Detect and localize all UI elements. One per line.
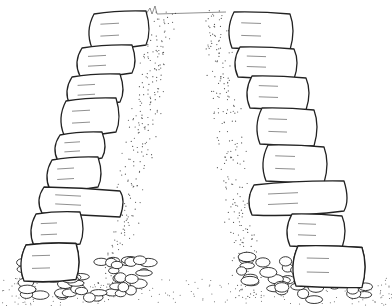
rubble-speck: [249, 225, 250, 226]
left-face-stone: [47, 157, 101, 191]
rubble-speck: [124, 221, 125, 222]
ground-speck: [380, 297, 381, 298]
rubble-speck: [150, 98, 151, 99]
rubble-speck: [151, 157, 152, 158]
rubble-speck: [139, 86, 140, 87]
ground-speck: [11, 286, 12, 287]
ground-speck: [167, 294, 168, 295]
rubble-speck: [261, 297, 262, 298]
rubble-speck: [142, 189, 143, 190]
rubble-speck: [148, 130, 149, 131]
rubble-speck: [132, 146, 133, 147]
rubble-speck: [126, 220, 127, 221]
rubble-speck: [233, 199, 234, 200]
rubble-speck: [106, 286, 107, 287]
rubble-speck: [158, 50, 159, 51]
grass-tuft: [146, 6, 226, 14]
rubble-speck: [148, 58, 149, 59]
rubble-speck: [211, 43, 212, 44]
rubble-speck: [141, 102, 142, 103]
rubble-speck: [163, 91, 164, 92]
ground-speck: [14, 283, 15, 284]
rubble-speck: [160, 67, 161, 68]
stone-wall-illustration: [0, 0, 392, 308]
ground-speck: [23, 302, 24, 303]
ground-speck: [159, 294, 160, 295]
rubble-speck: [218, 140, 219, 141]
rubble-speck: [247, 232, 248, 233]
rubble-speck: [164, 23, 165, 24]
rubble-speck: [227, 131, 228, 132]
rubble-speck: [247, 203, 248, 204]
ground-speck: [380, 290, 381, 291]
rubble-speck: [224, 222, 225, 223]
rubble-speck: [236, 146, 237, 147]
rubble-speck: [240, 163, 241, 164]
rubble-speck: [215, 60, 216, 61]
rubble-speck: [152, 81, 153, 82]
rubble-speck: [148, 84, 149, 85]
rubble-speck: [125, 166, 126, 167]
rubble-speck: [227, 99, 228, 100]
ground-speck: [197, 288, 198, 289]
ground-speck: [382, 295, 383, 296]
rubble-speck: [241, 210, 242, 211]
rubble-speck: [211, 91, 212, 92]
rubble-speck: [235, 205, 236, 206]
rubble-speck: [139, 94, 140, 95]
rubble-speck: [208, 26, 209, 27]
rubble-speck: [233, 105, 234, 106]
rubble-speck: [131, 141, 132, 142]
rubble-speck: [138, 122, 139, 123]
rubble-speck: [232, 121, 233, 122]
ground-speck: [194, 296, 195, 297]
rubble-speck: [157, 111, 158, 112]
ground-speck: [327, 291, 328, 292]
rubble-speck: [125, 174, 126, 175]
ground-speck: [90, 286, 91, 287]
rubble-speck: [233, 257, 234, 258]
ground-speck: [230, 291, 231, 292]
rubble-speck: [219, 93, 220, 94]
rubble-speck: [151, 154, 152, 155]
rubble-speck: [144, 127, 145, 128]
rubble-speck: [218, 48, 219, 49]
rubble-speck: [225, 182, 226, 183]
ground-speck: [12, 295, 13, 296]
ground-speck: [374, 301, 375, 302]
rubble-speck: [126, 142, 127, 143]
rubble-speck: [250, 293, 251, 294]
rubble-speck: [224, 88, 225, 89]
ground-speck: [385, 280, 386, 281]
rubble-speck: [241, 142, 242, 143]
rubble-speck: [127, 218, 128, 219]
ground-speck: [389, 293, 390, 294]
rubble-speck: [132, 119, 133, 120]
rubble-speck: [156, 80, 157, 81]
rubble-speck: [133, 149, 134, 150]
rubble-speck: [256, 294, 257, 295]
rubble-speck: [160, 79, 161, 80]
rubble-speck: [147, 45, 148, 46]
rubble-speck: [129, 127, 130, 128]
ground-speck: [165, 293, 166, 294]
rubble-speck: [146, 76, 147, 77]
foundation-cobble: [125, 274, 138, 283]
rubble-speck: [141, 151, 142, 152]
foundation-cobble: [279, 257, 291, 266]
rubble-speck: [218, 143, 219, 144]
rubble-speck: [226, 92, 227, 93]
rubble-speck: [157, 91, 158, 92]
rubble-speck: [217, 96, 218, 97]
rubble-speck: [164, 30, 165, 31]
rubble-speck: [145, 143, 146, 144]
ground-speck: [92, 287, 93, 288]
rubble-speck: [226, 153, 227, 154]
rubble-speck: [232, 52, 233, 53]
rubble-speck: [163, 19, 164, 20]
rubble-speck: [210, 35, 211, 36]
ground-speck: [173, 298, 174, 299]
foundation-cobble: [83, 293, 95, 302]
ground-speck: [380, 292, 381, 293]
rubble-speck: [156, 39, 157, 40]
